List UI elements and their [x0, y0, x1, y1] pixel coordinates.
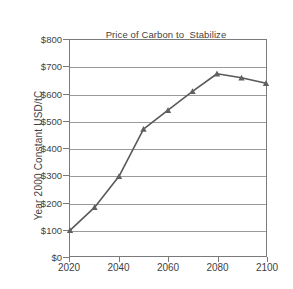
x-tick-label: 2100 — [244, 262, 290, 273]
y-tick-label: $100 — [18, 224, 62, 235]
y-tick-label: $500 — [18, 115, 62, 126]
x-tick-mark — [218, 257, 219, 262]
y-tick-label: $300 — [18, 170, 62, 181]
x-tick-label: 2060 — [145, 262, 191, 273]
y-tick-label: $800 — [18, 34, 62, 45]
series-line-and-markers — [70, 40, 266, 256]
plot-area — [69, 39, 267, 257]
y-tick-label: $200 — [18, 197, 62, 208]
x-tick-mark — [119, 257, 120, 262]
y-tick-label: $400 — [18, 143, 62, 154]
y-tick-label: $700 — [18, 61, 62, 72]
x-tick-label: 2040 — [96, 262, 142, 273]
x-tick-mark — [168, 257, 169, 262]
carbon-price-chart: Price of Carbon to Stabilize Radiative F… — [0, 0, 293, 289]
y-tick-label: $600 — [18, 88, 62, 99]
x-tick-label: 2080 — [195, 262, 241, 273]
x-tick-mark — [69, 257, 70, 262]
data-point-marker — [116, 173, 122, 179]
x-tick-label: 2020 — [46, 262, 92, 273]
series-line — [70, 74, 266, 231]
x-tick-mark — [267, 257, 268, 262]
y-tick-label: $0 — [18, 252, 62, 263]
